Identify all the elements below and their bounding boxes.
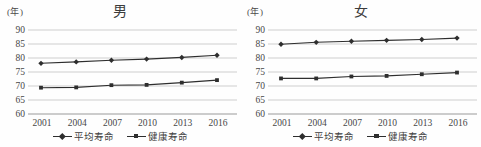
x-tick-label: 2004 [68, 118, 87, 128]
chart-male: (年) 男 6065707580859020012004200720102013… [0, 0, 240, 147]
square-marker-icon [374, 134, 379, 139]
chart-female: (年) 女 6065707580859020012004200720102013… [240, 0, 481, 147]
x-tick-label: 2010 [378, 118, 397, 128]
legend-swatch-average [53, 132, 72, 141]
data-point-marker [39, 86, 43, 90]
x-tick-label: 2007 [103, 118, 122, 128]
y-tick-label: 60 [256, 109, 266, 119]
series-line [41, 55, 217, 63]
legend-female: 平均寿命 健康寿命 [240, 129, 481, 143]
x-tick-label: 2016 [449, 118, 468, 128]
legend-item-average: 平均寿命 [53, 129, 114, 143]
y-tick-label: 80 [16, 53, 26, 63]
x-tick-label: 2010 [138, 118, 157, 128]
data-point-marker [419, 37, 424, 42]
legend-item-healthy: 健康寿命 [127, 129, 188, 143]
data-point-marker [214, 53, 219, 58]
y-tick-label: 75 [256, 67, 266, 77]
data-point-marker [384, 38, 389, 43]
data-point-marker [350, 75, 354, 79]
data-point-marker [38, 61, 43, 66]
square-marker-icon [134, 134, 139, 139]
series-line [41, 80, 217, 88]
data-point-marker [455, 71, 459, 75]
y-tick-label: 90 [16, 25, 26, 35]
life-expectancy-figure: (年) 男 6065707580859020012004200720102013… [0, 0, 481, 147]
x-tick-label: 2016 [209, 118, 228, 128]
y-tick-label: 85 [16, 39, 26, 49]
legend-item-average: 平均寿命 [293, 129, 354, 143]
diamond-marker-icon [59, 133, 65, 139]
legend-label-healthy: 健康寿命 [148, 129, 188, 143]
data-point-marker [454, 35, 459, 40]
y-tick-label: 60 [16, 109, 26, 119]
legend-male: 平均寿命 健康寿命 [0, 129, 240, 143]
data-point-marker [110, 83, 114, 87]
data-point-marker [279, 77, 283, 81]
y-tick-label: 85 [256, 39, 266, 49]
plot-area-female: 60657075808590200120042007201020132016 [240, 0, 480, 128]
y-tick-label: 80 [256, 53, 266, 63]
y-tick-label: 90 [256, 25, 266, 35]
x-tick-label: 2001 [273, 118, 292, 128]
data-point-marker [420, 72, 424, 76]
y-tick-label: 70 [16, 81, 26, 91]
legend-label-average: 平均寿命 [74, 129, 114, 143]
legend-swatch-healthy [127, 132, 146, 141]
y-tick-label: 65 [16, 95, 26, 105]
data-point-marker [179, 55, 184, 60]
x-tick-label: 2001 [33, 118, 52, 128]
data-point-marker [215, 78, 219, 82]
data-point-marker [144, 56, 149, 61]
x-tick-label: 2007 [343, 118, 362, 128]
y-tick-label: 65 [256, 95, 266, 105]
x-tick-label: 2013 [413, 118, 432, 128]
data-point-marker [385, 74, 389, 78]
x-tick-label: 2013 [173, 118, 192, 128]
diamond-marker-icon [299, 133, 305, 139]
data-point-marker [278, 42, 283, 47]
data-point-marker [349, 39, 354, 44]
series-line [281, 73, 457, 79]
legend-swatch-average [293, 132, 312, 141]
series-line [281, 38, 457, 44]
x-tick-label: 2004 [308, 118, 327, 128]
data-point-marker [180, 81, 184, 85]
y-tick-label: 75 [16, 67, 26, 77]
legend-label-healthy: 健康寿命 [388, 129, 428, 143]
data-point-marker [74, 86, 78, 90]
plot-area-male: 60657075808590200120042007201020132016 [0, 0, 240, 128]
legend-swatch-healthy [367, 132, 386, 141]
data-point-marker [145, 83, 149, 87]
legend-item-healthy: 健康寿命 [367, 129, 428, 143]
legend-label-average: 平均寿命 [314, 129, 354, 143]
data-point-marker [74, 59, 79, 64]
y-tick-label: 70 [256, 81, 266, 91]
data-point-marker [314, 77, 318, 81]
